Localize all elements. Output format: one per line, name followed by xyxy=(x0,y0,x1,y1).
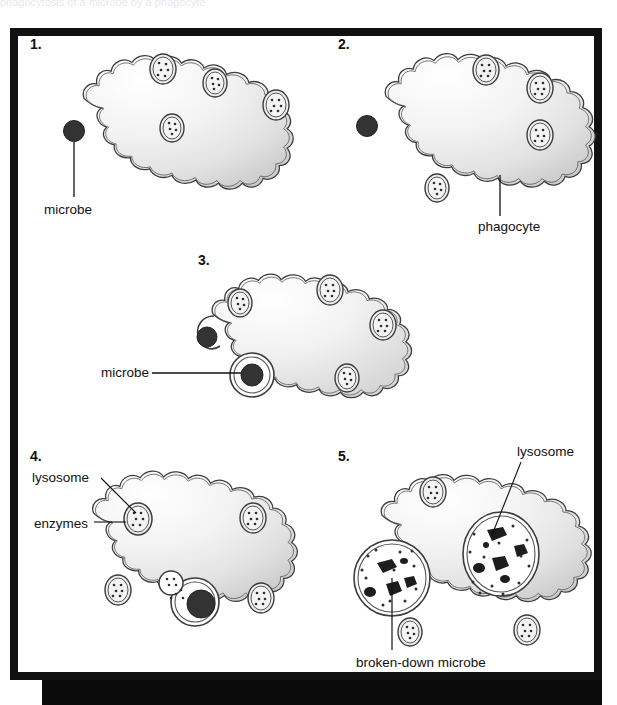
figure-frame xyxy=(10,28,602,680)
label-microbe-1: microbe xyxy=(44,202,92,217)
label-broken-down-microbe-5: broken-down microbe xyxy=(356,655,486,670)
figure-stage: phagocytosis of a microbe by a phagocyte… xyxy=(0,0,617,705)
panel-number-2: 2. xyxy=(338,36,350,52)
label-lysosome-5: lysosome xyxy=(517,444,574,459)
panel-number-1: 1. xyxy=(30,36,42,52)
panel-number-3: 3. xyxy=(198,252,210,268)
panel-number-5: 5. xyxy=(338,448,350,464)
label-microbe-3: microbe xyxy=(101,365,149,380)
label-enzymes-4: enzymes xyxy=(34,516,88,531)
panel-number-4: 4. xyxy=(30,448,42,464)
label-lysosome-4: lysosome xyxy=(32,470,89,485)
top-cutoff-text: phagocytosis of a microbe by a phagocyte xyxy=(0,0,617,14)
label-phagocyte-2: phagocyte xyxy=(478,219,540,234)
top-cutoff-text-value: phagocytosis of a microbe by a phagocyte xyxy=(0,0,205,8)
frame-shadow-bottom xyxy=(42,680,602,705)
